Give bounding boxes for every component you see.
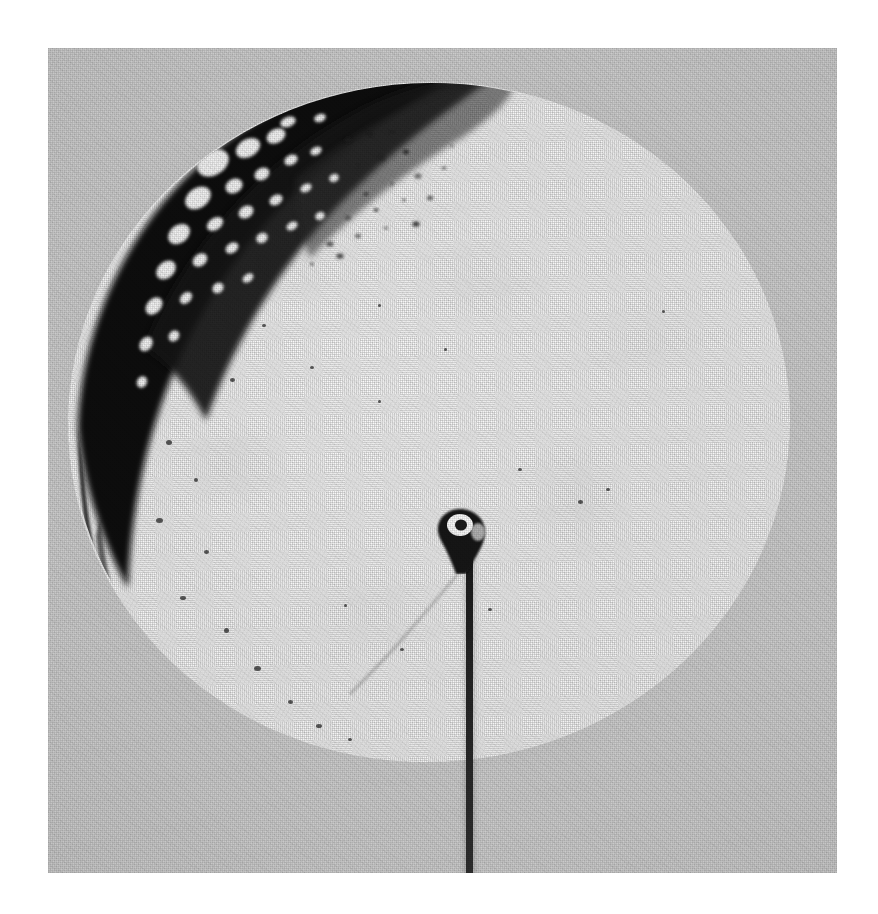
crescent-transition-dot [378,155,385,160]
crescent-transition-dot [403,150,409,154]
crescent-transition-dot [390,130,395,133]
matrix-inclusion [224,628,229,633]
matrix-inclusion [180,596,186,600]
matrix-inclusion [662,310,665,313]
matrix-inclusion [378,400,381,403]
matrix-inclusion [444,348,447,351]
matrix-inclusion [400,648,404,651]
matrix-inclusion [254,666,261,671]
matrix-inclusion [488,608,492,611]
crescent-transition-dot [412,221,419,226]
matrix-inclusion [194,478,198,482]
crescent-transition-dot [356,165,360,168]
image-description: Black-and-white halftone photograph of a… [0,0,1,1]
crescent-transition-dot [364,192,369,195]
matrix-inclusion [518,468,522,471]
crescent-group [78,72,516,808]
porous-dark-crescent [48,48,837,873]
crescent-transition-dot [414,173,421,178]
matrix-inclusion [204,550,209,554]
matrix-inclusion [378,304,381,307]
mounting-wire [466,548,473,873]
crescent-transition-dot [310,263,314,266]
matrix-inclusion [156,518,163,523]
matrix-inclusion [166,440,172,445]
matrix-inclusion [316,724,322,728]
photo-page: Black-and-white halftone photograph of a… [0,0,878,914]
photographic-plate [48,48,837,873]
matrix-inclusion [230,378,235,382]
crescent-transition-dot [427,196,433,200]
crescent-transition-dot [450,145,454,148]
matrix-inclusion [310,366,314,369]
matrix-inclusion [344,604,347,607]
crescent-transition-dot [384,226,389,229]
crescent-transition-dot [367,132,373,136]
crescent-transition-dot [442,166,447,169]
crescent-transition-dot [390,183,394,186]
matrix-inclusion [578,500,583,504]
matrix-inclusion [262,324,266,327]
matrix-inclusion [288,700,293,704]
crescent-transition-dot [402,199,406,202]
crescent-transition-dot [374,208,379,211]
matrix-inclusion [606,488,610,491]
matrix-inclusion [348,738,352,741]
mounting-hub [430,506,492,574]
crescent-transition-dot [326,241,333,246]
crescent-transition-dot [345,216,351,220]
crescent-transition-dot [336,253,343,258]
hub-side-highlight [471,523,485,541]
hub-highlight-center [455,520,467,531]
crescent-transition-dot [344,137,351,142]
crescent-transition-dot [355,234,361,238]
